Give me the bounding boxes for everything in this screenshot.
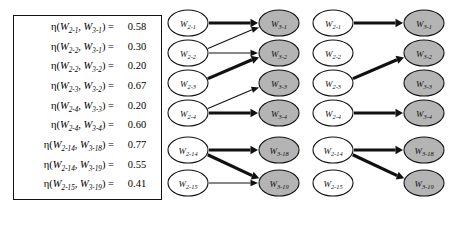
pruned-node-left-W2-2[interactable]: W2-2 bbox=[313, 40, 353, 66]
graph-edge-arrowhead bbox=[396, 19, 404, 27]
graph-edge-weak bbox=[208, 90, 252, 109]
all-node-right-W3-19[interactable]: W3-19 bbox=[259, 170, 299, 196]
pruned-node-right-W3-2[interactable]: W3-2 bbox=[404, 40, 444, 66]
graph-edge-arrowhead bbox=[251, 50, 259, 56]
eta-value: 0.20 bbox=[117, 101, 161, 112]
graph-all-edges: W2-1W2-2W2-3W2-4W2-14W2-15W3-1W3-2W3-3W3… bbox=[166, 0, 311, 229]
eta-expression: η(W2-1, W3-1) = bbox=[14, 22, 117, 35]
pruned-node-right-W3-19[interactable]: W3-19 bbox=[404, 170, 444, 196]
edge-layer-all bbox=[208, 19, 260, 186]
all-node-right-W3-4[interactable]: W3-4 bbox=[259, 100, 299, 126]
graph-edge-arrowhead bbox=[251, 109, 259, 117]
graph-edge-strong bbox=[208, 60, 252, 79]
eta-expression: η(W2-2, W3-2) = bbox=[14, 61, 117, 74]
all-node-left-W2-4[interactable]: W2-4 bbox=[168, 100, 208, 126]
eta-expression: η(W2-4, W3-3) = bbox=[14, 101, 117, 114]
all-node-right-W3-2[interactable]: W3-2 bbox=[259, 40, 299, 66]
eta-value: 0.55 bbox=[117, 160, 161, 171]
eta-table-row: η(W2-14, W3-19) =0.55 bbox=[14, 160, 161, 173]
eta-value: 0.20 bbox=[117, 61, 161, 72]
eta-table-row: η(W2-4, W3-4) =0.60 bbox=[14, 120, 161, 133]
pruned-node-left-W2-4[interactable]: W2-4 bbox=[313, 100, 353, 126]
eta-table-row: η(W2-4, W3-3) =0.20 bbox=[14, 101, 161, 114]
graph-edge-arrowhead bbox=[396, 146, 404, 154]
pruned-node-left-W2-3[interactable]: W2-3 bbox=[313, 70, 353, 96]
graph-pruned-edges: W2-1W2-2W2-3W2-4W2-14W2-15W3-1W3-2W3-3W3… bbox=[311, 0, 456, 229]
pruned-node-left-W2-1[interactable]: W2-1 bbox=[313, 10, 353, 36]
eta-table-row: η(W2-15, W3-19) =0.41 bbox=[14, 179, 161, 192]
eta-expression: η(W2-2, W3-1) = bbox=[14, 42, 117, 55]
graph-edge-arrowhead bbox=[251, 27, 259, 33]
graph-edge-strong bbox=[208, 155, 252, 176]
graph-all-edges-svg: W2-1W2-2W2-3W2-4W2-14W2-15W3-1W3-2W3-3W3… bbox=[166, 0, 311, 229]
eta-table-row: η(W2-2, W3-2) =0.20 bbox=[14, 61, 161, 74]
eta-expression: η(W2-15, W3-19) = bbox=[14, 179, 117, 192]
eta-value: 0.77 bbox=[117, 140, 161, 151]
pruned-node-right-W3-3[interactable]: W3-3 bbox=[404, 70, 444, 96]
pruned-node-right-W3-18[interactable]: W3-18 bbox=[404, 137, 444, 163]
graph-edge-arrowhead bbox=[251, 19, 259, 27]
pruned-node-right-W3-1[interactable]: W3-1 bbox=[404, 10, 444, 36]
eta-value: 0.60 bbox=[117, 120, 161, 131]
eta-expression: η(W2-4, W3-4) = bbox=[14, 120, 117, 133]
eta-value: 0.58 bbox=[117, 22, 161, 33]
figure-root: η(W2-1, W3-1) =0.58η(W2-2, W3-1) =0.30η(… bbox=[0, 0, 456, 229]
all-node-left-W2-3[interactable]: W2-3 bbox=[168, 70, 208, 96]
graph-edge-arrowhead bbox=[251, 146, 259, 154]
graph-edge-arrowhead bbox=[251, 87, 259, 93]
eta-table-row: η(W2-3, W3-2) =0.67 bbox=[14, 81, 161, 94]
pruned-node-left-W2-14[interactable]: W2-14 bbox=[313, 137, 353, 163]
eta-table-row: η(W2-2, W3-1) =0.30 bbox=[14, 42, 161, 55]
graph-pruned-edges-svg: W2-1W2-2W2-3W2-4W2-14W2-15W3-1W3-2W3-3W3… bbox=[311, 0, 456, 229]
graph-edge-strong bbox=[353, 155, 397, 176]
graph-edge-arrowhead bbox=[396, 109, 404, 117]
eta-table-row: η(W2-14, W3-18) =0.77 bbox=[14, 140, 161, 153]
eta-value: 0.41 bbox=[117, 179, 161, 190]
eta-expression: η(W2-14, W3-19) = bbox=[14, 160, 117, 173]
all-node-left-W2-15[interactable]: W2-15 bbox=[168, 170, 208, 196]
pruned-node-left-W2-15[interactable]: W2-15 bbox=[313, 170, 353, 196]
all-node-right-W3-3[interactable]: W3-3 bbox=[259, 70, 299, 96]
graph-edge-weak bbox=[208, 30, 252, 49]
all-node-left-W2-2[interactable]: W2-2 bbox=[168, 40, 208, 66]
eta-value: 0.30 bbox=[117, 42, 161, 53]
eta-expression: η(W2-14, W3-18) = bbox=[14, 140, 117, 153]
graph-edge-arrowhead bbox=[251, 180, 259, 186]
eta-expression: η(W2-3, W3-2) = bbox=[14, 81, 117, 94]
eta-similarity-table: η(W2-1, W3-1) =0.58η(W2-2, W3-1) =0.30η(… bbox=[13, 15, 162, 200]
all-node-left-W2-1[interactable]: W2-1 bbox=[168, 10, 208, 36]
all-node-left-W2-14[interactable]: W2-14 bbox=[168, 137, 208, 163]
eta-table-rows: η(W2-1, W3-1) =0.58η(W2-2, W3-1) =0.30η(… bbox=[14, 16, 161, 199]
graph-edge-strong bbox=[353, 60, 397, 79]
edge-layer-pruned bbox=[353, 19, 405, 180]
eta-value: 0.67 bbox=[117, 81, 161, 92]
all-node-right-W3-1[interactable]: W3-1 bbox=[259, 10, 299, 36]
pruned-node-right-W3-4[interactable]: W3-4 bbox=[404, 100, 444, 126]
all-node-right-W3-18[interactable]: W3-18 bbox=[259, 137, 299, 163]
eta-table-row: η(W2-1, W3-1) =0.58 bbox=[14, 22, 161, 35]
